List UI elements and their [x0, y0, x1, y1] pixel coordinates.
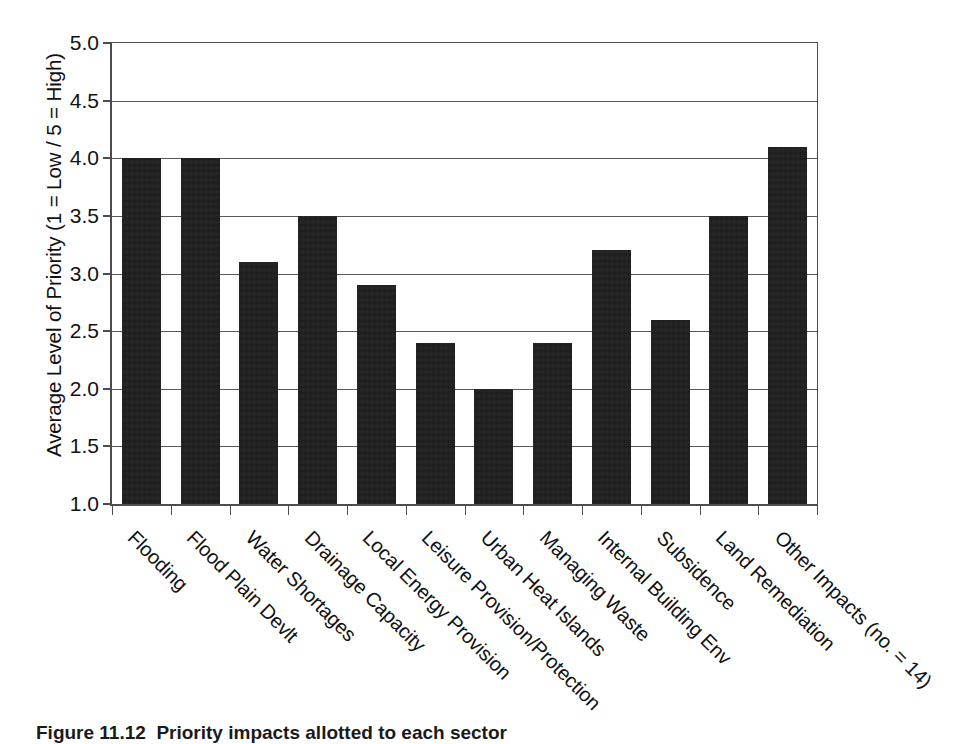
y-tick-mark — [103, 42, 112, 44]
y-tick-label: 4.5 — [70, 89, 99, 113]
y-tick-label: 5.0 — [70, 31, 99, 55]
bar — [533, 343, 572, 504]
y-tick-label: 2.0 — [70, 377, 99, 401]
bar — [651, 320, 690, 504]
y-tick-mark — [103, 100, 112, 102]
y-tick-label: 1.0 — [70, 492, 99, 516]
y-tick-label: 1.5 — [70, 434, 99, 458]
y-tick-label: 4.0 — [70, 146, 99, 170]
bar — [298, 216, 337, 504]
x-tick-mark — [112, 504, 113, 515]
x-tick-mark — [817, 504, 818, 515]
x-tick-mark — [523, 504, 524, 515]
bar — [474, 389, 513, 504]
y-tick-mark — [103, 388, 112, 390]
x-tick-mark — [700, 504, 701, 515]
x-tick-mark — [582, 504, 583, 515]
bar — [181, 158, 220, 504]
y-tick-label: 3.5 — [70, 204, 99, 228]
x-axis-label: Flooding — [123, 526, 192, 595]
caption-text: Priority impacts allotted to each sector — [156, 722, 507, 743]
x-tick-mark — [347, 504, 348, 515]
bar — [239, 262, 278, 504]
gridline — [112, 101, 817, 102]
y-tick-mark — [103, 503, 112, 505]
y-tick-label: 2.5 — [70, 319, 99, 343]
x-tick-mark — [171, 504, 172, 515]
y-tick-mark — [103, 330, 112, 332]
bar — [122, 158, 161, 504]
y-tick-label: 3.0 — [70, 262, 99, 286]
y-tick-mark — [103, 445, 112, 447]
plot-area: 5.04.54.03.53.02.52.01.51.0 — [110, 42, 818, 506]
x-tick-mark — [406, 504, 407, 515]
x-tick-mark — [465, 504, 466, 515]
x-tick-mark — [641, 504, 642, 515]
figure-caption: Figure 11.12 Priority impacts allotted t… — [36, 722, 936, 744]
bar — [416, 343, 455, 504]
y-tick-mark — [103, 273, 112, 275]
bar — [592, 250, 631, 504]
bar — [709, 216, 748, 504]
x-tick-mark — [288, 504, 289, 515]
x-tick-mark — [230, 504, 231, 515]
bar — [768, 147, 807, 504]
y-tick-mark — [103, 157, 112, 159]
caption-number: Figure 11.12 — [36, 722, 146, 743]
bar — [357, 285, 396, 504]
x-tick-mark — [758, 504, 759, 515]
y-tick-mark — [103, 215, 112, 217]
